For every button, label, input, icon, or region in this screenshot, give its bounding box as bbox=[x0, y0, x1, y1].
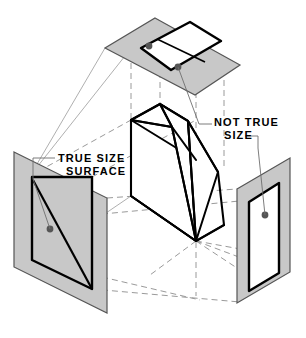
true-size-label-line2: SURFACE bbox=[66, 165, 126, 177]
orthographic-projection-diagram: TRUE SIZE SURFACE NOT TRUE SIZE bbox=[0, 0, 306, 338]
technical-drawing-figure: TRUE SIZE SURFACE NOT TRUE SIZE bbox=[0, 0, 306, 338]
plane-right-view-outline bbox=[249, 183, 279, 291]
true-size-label-line1: TRUE SIZE bbox=[58, 152, 125, 164]
not-true-size-label-line1: NOT TRUE bbox=[214, 116, 279, 128]
not-true-size-label-line2: SIZE bbox=[224, 129, 253, 141]
plane-top-marker-dot-1 bbox=[146, 43, 153, 50]
label-true-size-surface: TRUE SIZE SURFACE bbox=[58, 152, 126, 177]
